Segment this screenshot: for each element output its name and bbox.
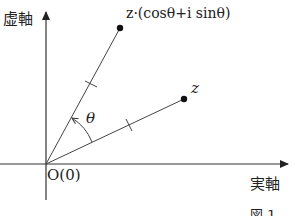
point-rotated-label: z·(cosθ+i sinθ)	[126, 5, 230, 21]
tick-mark-z	[126, 119, 132, 131]
point-z	[181, 96, 187, 102]
figure-caption: 図 1	[250, 204, 275, 216]
vector-z	[46, 99, 184, 164]
point-z-label: z	[191, 79, 199, 97]
imaginary-axis-label: 虚軸	[3, 7, 33, 28]
origin-label: O(0)	[47, 166, 81, 184]
real-axis-label: 実軸	[250, 172, 280, 193]
angle-label: θ	[86, 109, 95, 127]
vector-rotated	[46, 28, 120, 164]
point-rotated	[117, 25, 123, 31]
